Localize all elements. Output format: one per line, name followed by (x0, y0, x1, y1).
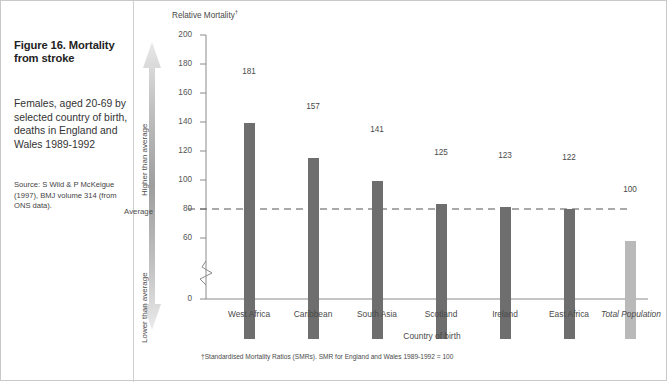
ytick-label-160: 160 (162, 88, 192, 97)
bar-chart: Relative Mortality† (172, 9, 662, 339)
bar-east-africa[interactable] (564, 209, 575, 339)
bar-value-west-africa: 181 (229, 67, 269, 76)
x-axis-title: Country of birth (372, 331, 492, 341)
bar-ireland[interactable] (500, 207, 511, 339)
chart-footnote: †Standardised Mortality Ratios (SMRs). S… (201, 353, 453, 360)
bar-value-east-africa: 122 (549, 153, 589, 162)
ytick-label-80: 80 (162, 204, 192, 213)
arrow-label-lower: Lower than average (140, 260, 164, 356)
relative-scale-arrow: Higher than average Lower than average (140, 42, 164, 330)
ytick-label-0: 0 (162, 294, 192, 303)
bar-value-caribbean: 157 (293, 102, 333, 111)
ytick-label-120: 120 (162, 146, 192, 155)
bar-west-africa[interactable] (244, 123, 255, 339)
figure-subtitle: Females, aged 20-69 by selected country … (14, 97, 130, 151)
arrow-label-higher: Higher than average (140, 112, 164, 208)
bar-value-total-population: 100 (610, 185, 650, 194)
caption-panel: Figure 16. Mortality from stroke Females… (1, 1, 134, 382)
bar-value-scotland: 125 (421, 148, 461, 157)
ytick-label-200: 200 (162, 30, 192, 39)
figure-title: Figure 16. Mortality from stroke (14, 39, 126, 66)
ytick-label-180: 180 (162, 59, 192, 68)
bar-value-ireland: 123 (485, 151, 525, 160)
ytick-label-60: 60 (162, 233, 192, 242)
ytick-label-140: 140 (162, 117, 192, 126)
bar-value-south-asia: 141 (357, 125, 397, 134)
bar-total-population[interactable] (625, 241, 636, 339)
category-label-total-population: Total Population (586, 309, 667, 319)
arrow-label-average: Average (101, 207, 153, 216)
ytick-label-100: 100 (162, 175, 192, 184)
